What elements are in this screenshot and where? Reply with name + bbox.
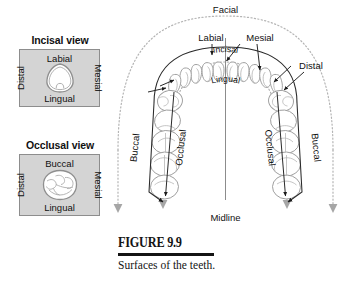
label-buccal-left: Buccal [128, 133, 142, 163]
occlusal-label-mesial: Mesial [93, 171, 103, 198]
occlusal-label-distal: Distal [16, 173, 26, 197]
figure-rule [118, 253, 214, 256]
figure-caption-text: Surfaces of the teeth. [118, 259, 338, 272]
incisal-view-box: Labial Distal Mesial Lingual [19, 49, 100, 107]
incisal-label-distal: Distal [16, 66, 26, 90]
dental-arch-diagram: Facial Labial Mesial Distal Incisal Ling… [108, 0, 343, 232]
molar-tooth-icon [41, 168, 79, 202]
occlusal-label-lingual: Lingual [44, 203, 75, 213]
label-midline: Midline [210, 212, 240, 223]
occlusal-view-panel: Occlusal view Buccal Distal Mesial Lingu… [18, 139, 102, 216]
label-buccal-right: Buccal [310, 133, 324, 163]
label-facial: Facial [213, 4, 238, 15]
incisal-view-panel: Incisal view Labial Distal Mesial Lingua… [18, 34, 102, 107]
label-labial: Labial [198, 32, 223, 43]
label-incisal: Incisal [212, 44, 239, 55]
incisal-view-title: Incisal view [18, 34, 102, 46]
occlusal-view-title: Occlusal view [18, 139, 102, 151]
figure-number: FIGURE 9.9 [118, 236, 312, 251]
incisor-tooth-icon [43, 61, 77, 95]
incisal-label-mesial: Mesial [93, 64, 103, 91]
label-distal: Distal [299, 60, 323, 71]
label-lingual: Lingual [210, 74, 241, 86]
figure-caption-block: FIGURE 9.9 Surfaces of the teeth. [118, 236, 338, 272]
figure-page: Incisal view Labial Distal Mesial Lingua… [0, 0, 343, 281]
occlusal-view-box: Buccal Distal Mesial Lingual [19, 154, 100, 216]
label-mesial: Mesial [246, 32, 273, 43]
